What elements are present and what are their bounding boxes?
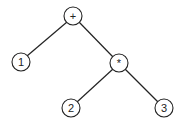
svg-text:1: 1 [18,56,24,68]
svg-text:*: * [117,57,122,69]
node-times: * [110,54,128,72]
svg-text:3: 3 [161,102,167,114]
svg-text:2: 2 [68,102,74,114]
svg-text:+: + [70,10,76,22]
node-two: 2 [62,99,80,117]
edge-times-two [77,69,113,102]
node-three: 3 [155,99,173,117]
node-one: 1 [12,53,30,71]
edge-plus-one [27,22,67,56]
node-plus: + [64,7,82,25]
edge-plus-times [79,22,113,57]
edge-times-three [125,69,158,102]
expression-tree-diagram: + 1 * 2 3 [0,0,181,127]
